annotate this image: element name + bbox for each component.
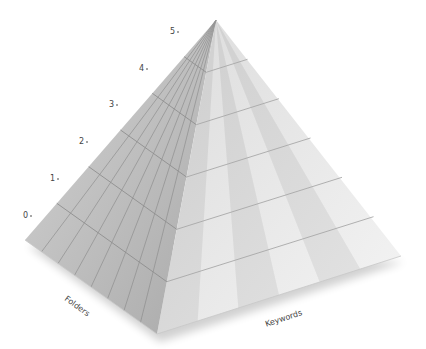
level-label-1: 1: [50, 175, 59, 183]
pyramid-graphic: [0, 0, 426, 349]
level-2-text: 2: [79, 138, 84, 146]
level-2-dot: [86, 141, 88, 143]
level-label-4: 4: [139, 65, 148, 73]
level-0-text: 0: [23, 212, 28, 220]
level-label-3: 3: [109, 101, 118, 109]
level-4-text: 4: [139, 65, 144, 73]
level-label-0: 0: [23, 212, 32, 220]
level-0-dot: [30, 215, 32, 217]
level-1-text: 1: [50, 175, 55, 183]
level-5-text: 5: [170, 28, 175, 36]
level-4-dot: [146, 68, 148, 70]
level-1-dot: [57, 178, 59, 180]
pyramid-diagram: 5 4 3 2 1 0 Folders Keywords: [0, 0, 426, 349]
level-label-2: 2: [79, 138, 88, 146]
level-3-text: 3: [109, 101, 114, 109]
level-label-5: 5: [170, 28, 179, 36]
level-5-dot: [177, 31, 179, 33]
level-3-dot: [116, 104, 118, 106]
